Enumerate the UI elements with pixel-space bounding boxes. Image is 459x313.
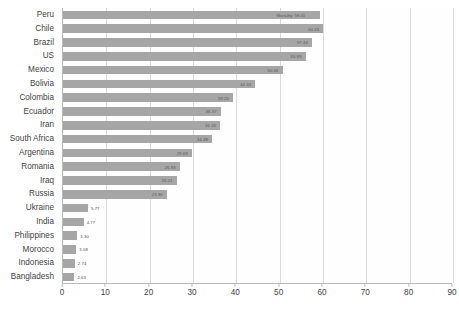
- bar-value-label: 2.63: [77, 275, 86, 280]
- tick-mark: [105, 284, 106, 287]
- bar-value-label: 44.34: [240, 81, 251, 86]
- bar[interactable]: [63, 80, 255, 89]
- bar[interactable]: [63, 245, 76, 254]
- bar-value-label: 3.30: [80, 233, 89, 238]
- bar[interactable]: [63, 231, 77, 240]
- bar[interactable]: [63, 24, 323, 33]
- bar-value-label: 3.08: [79, 247, 88, 252]
- bar[interactable]: [63, 107, 221, 116]
- tick-mark: [365, 284, 366, 287]
- x-axis-tick: 0: [60, 284, 65, 297]
- gridline: [453, 8, 454, 283]
- category-label: India: [36, 218, 54, 226]
- bar-chart: PeruChileBrazilUSMexicoBoliviaColombiaEc…: [0, 0, 459, 313]
- tick-label: 30: [187, 289, 196, 297]
- chart-plot-wrapper: PeruChileBrazilUSMexicoBoliviaColombiaEc…: [0, 0, 459, 313]
- category-label: Morocco: [23, 245, 54, 253]
- bar-row[interactable]: 23.96: [63, 190, 452, 199]
- bar-value-label: 57.44: [297, 40, 308, 45]
- tick-label: 90: [447, 289, 456, 297]
- bar-value-label: 34.38: [197, 137, 208, 142]
- category-label: Russia: [29, 190, 54, 198]
- category-label: Indonesia: [18, 259, 54, 267]
- bar-value-label: 26.93: [165, 164, 176, 169]
- category-label: Iraq: [40, 176, 54, 184]
- x-axis-tick: 10: [101, 284, 110, 297]
- bar-value-label: 23.96: [152, 192, 163, 197]
- bar-row[interactable]: 36.37: [63, 107, 452, 116]
- bar-row[interactable]: 5.77: [63, 204, 452, 213]
- tick-mark: [191, 284, 192, 287]
- bar[interactable]: [63, 121, 220, 130]
- bar-row[interactable]: 55.99: [63, 52, 452, 61]
- bar-row[interactable]: 60.03: [63, 24, 452, 33]
- category-label: US: [43, 52, 54, 60]
- value-axis-ticks: 0102030405060708090: [62, 284, 452, 306]
- bar-row[interactable]: 3.30: [63, 231, 452, 240]
- bar[interactable]: [63, 52, 306, 61]
- tick-mark: [451, 284, 452, 287]
- bar-row[interactable]: 57.44: [63, 38, 452, 47]
- bar-row[interactable]: 29.69: [63, 149, 452, 158]
- bar-value-label: 60.03: [308, 26, 319, 31]
- tick-label: 0: [60, 289, 65, 297]
- bar[interactable]: [63, 149, 192, 158]
- x-axis-tick: 70: [361, 284, 370, 297]
- x-axis-tick: 60: [317, 284, 326, 297]
- tick-label: 60: [317, 289, 326, 297]
- tick-label: 50: [274, 289, 283, 297]
- bar-row[interactable]: 36.24: [63, 121, 452, 130]
- bar[interactable]: [63, 93, 233, 102]
- bar[interactable]: [63, 66, 283, 75]
- bar-value-label: 5.77: [91, 206, 100, 211]
- tick-label: 70: [361, 289, 370, 297]
- category-label: Ukraine: [26, 204, 54, 212]
- category-axis-labels: PeruChileBrazilUSMexicoBoliviaColombiaEc…: [0, 8, 58, 284]
- bar-annotation: Mortality: 59.41: [276, 12, 305, 17]
- tick-label: 80: [404, 289, 413, 297]
- bar-row[interactable]: 26.21: [63, 176, 452, 185]
- bar[interactable]: [63, 218, 84, 227]
- category-label: South Africa: [10, 135, 54, 143]
- tick-mark: [278, 284, 279, 287]
- bar[interactable]: [63, 273, 74, 282]
- bar-row[interactable]: 2.63: [63, 273, 452, 282]
- category-label: Peru: [37, 11, 54, 19]
- tick-label: 20: [144, 289, 153, 297]
- bar-value-label: 29.69: [177, 150, 188, 155]
- tick-mark: [408, 284, 409, 287]
- tick-mark: [235, 284, 236, 287]
- bar-value-label: 26.21: [162, 178, 173, 183]
- category-label: Ecuador: [24, 107, 55, 115]
- bar-row[interactable]: Mortality: 59.41: [63, 11, 452, 20]
- category-label: Bolivia: [30, 80, 54, 88]
- bar-row[interactable]: 4.77: [63, 218, 452, 227]
- bar[interactable]: [63, 176, 177, 185]
- category-label: Chile: [35, 25, 54, 33]
- bar[interactable]: [63, 135, 212, 144]
- x-axis-tick: 20: [144, 284, 153, 297]
- bar[interactable]: [63, 204, 88, 213]
- bar-row[interactable]: 2.74: [63, 259, 452, 268]
- x-axis-tick: 80: [404, 284, 413, 297]
- bar-value-label: 39.20: [218, 95, 229, 100]
- bar-row[interactable]: 50.66: [63, 66, 452, 75]
- bar-rows: Mortality: 59.4160.0357.4455.9950.6644.3…: [63, 8, 452, 283]
- category-label: Iran: [40, 121, 54, 129]
- bar-value-label: 50.66: [268, 68, 279, 73]
- tick-mark: [62, 284, 63, 287]
- bar-row[interactable]: 3.08: [63, 245, 452, 254]
- bar-value-label: 36.37: [206, 109, 217, 114]
- bar[interactable]: [63, 259, 75, 268]
- bar[interactable]: [63, 162, 180, 171]
- bar-row[interactable]: 39.20: [63, 93, 452, 102]
- bar-value-label: 4.77: [87, 219, 96, 224]
- bar-value-label: 36.24: [205, 123, 216, 128]
- bar-row[interactable]: 44.34: [63, 80, 452, 89]
- x-axis-tick: 40: [231, 284, 240, 297]
- bar[interactable]: [63, 38, 312, 47]
- bar-row[interactable]: 34.38: [63, 135, 452, 144]
- bar-row[interactable]: 26.93: [63, 162, 452, 171]
- category-label: Argentina: [19, 149, 54, 157]
- category-label: Colombia: [19, 94, 54, 102]
